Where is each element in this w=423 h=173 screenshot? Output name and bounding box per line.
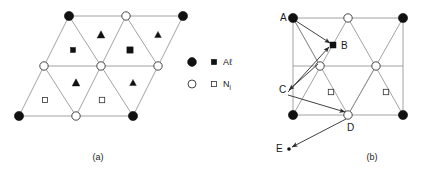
al-atom-node xyxy=(64,11,73,20)
al-interstitial-square xyxy=(330,42,336,48)
ni-atom-node xyxy=(97,62,105,70)
point-label-b: B xyxy=(341,40,348,51)
panel-b-caption: (b) xyxy=(367,152,378,162)
legend-square-al xyxy=(211,59,216,64)
ni-atom-node xyxy=(344,111,352,119)
al-atom-node xyxy=(398,13,407,22)
lattice-edge xyxy=(126,16,158,66)
triangle-site-marker xyxy=(130,79,137,85)
point-label-a: A xyxy=(280,12,287,23)
ni-atom-node xyxy=(372,62,380,70)
al-interstitial-square xyxy=(127,47,133,53)
panel-a-caption: (a) xyxy=(93,152,104,162)
ni-interstitial-square xyxy=(383,89,388,94)
panel-a: (a) xyxy=(14,11,187,162)
triangle-site-marker xyxy=(72,79,80,86)
point-label-e: E xyxy=(276,143,283,154)
triangle-site-marker xyxy=(155,31,162,37)
legend-circle-al xyxy=(188,58,197,67)
triangle-site-marker xyxy=(97,31,105,38)
panel-a-circle-nodes xyxy=(14,11,187,120)
panel-b-migration-arrows xyxy=(288,21,346,147)
ni-atom-node xyxy=(40,62,48,70)
panel-b: ABCDE (b) xyxy=(276,12,408,162)
arrow-d-to-e xyxy=(292,119,346,147)
al-atom-node xyxy=(178,11,187,20)
point-label-c: C xyxy=(279,84,286,95)
al-interstitial-square xyxy=(71,48,76,53)
al-atom-node xyxy=(288,110,297,119)
ni-interstitial-square xyxy=(328,89,333,94)
legend-label-ni: Ni xyxy=(223,79,231,90)
lattice-edge xyxy=(44,66,76,116)
legend-circle-ni xyxy=(188,80,196,88)
al-atom-node xyxy=(14,111,23,120)
lattice-figure-svg: (a) AℓNi ABCDE (b) xyxy=(0,0,423,173)
ni-atom-node xyxy=(122,12,130,20)
legend-label-tail: ℓ xyxy=(229,57,233,67)
point-dot xyxy=(287,147,290,150)
lattice-edge xyxy=(101,66,133,116)
ni-atom-node xyxy=(344,14,352,22)
lattice-edge xyxy=(293,18,320,66)
legend: AℓNi xyxy=(188,57,233,90)
panel-b-point-dots xyxy=(287,147,290,150)
al-atom-node xyxy=(128,111,137,120)
legend-label-subscript: i xyxy=(230,84,231,91)
panel-b-lattice-lines xyxy=(293,18,403,115)
legend-label-al: Aℓ xyxy=(223,57,233,67)
ni-atom-node xyxy=(316,62,324,70)
panel-a-triangle-markers xyxy=(72,31,161,86)
legend-entries: AℓNi xyxy=(188,57,233,90)
ni-atom-node xyxy=(154,62,162,70)
panel-b-circle-nodes xyxy=(288,13,407,119)
legend-square-ni xyxy=(211,81,216,86)
ni-atom-node xyxy=(72,112,80,120)
ni-interstitial-square xyxy=(43,98,48,103)
figure-root: (a) AℓNi ABCDE (b) xyxy=(0,0,423,173)
ni-interstitial-square xyxy=(99,97,104,102)
lattice-edge xyxy=(69,16,101,66)
al-atom-node xyxy=(398,110,407,119)
point-label-d: D xyxy=(347,122,354,133)
lattice-edge xyxy=(348,66,376,115)
